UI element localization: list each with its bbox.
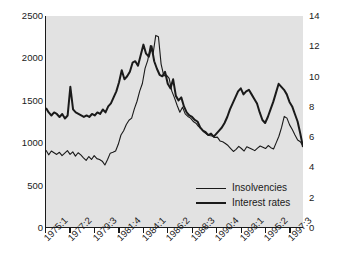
right-axis-tick-label: 8 xyxy=(309,102,314,112)
legend-item-interest-rates: Interest rates xyxy=(196,198,290,208)
legend-line-icon-interest-rates xyxy=(196,202,226,204)
legend-item-insolvencies: Insolvencies xyxy=(196,183,290,193)
series-line-interest-rates xyxy=(46,45,303,147)
right-axis-tick-label: 4 xyxy=(309,163,314,173)
legend-label-insolvencies: Insolvencies xyxy=(232,183,287,193)
left-axis-tick-label: 1500 xyxy=(22,96,43,106)
left-axis-tick-label: 1000 xyxy=(22,138,43,148)
x-axis-label-group: 1975:11977:21979:31981:41984:11986:21988… xyxy=(0,232,340,278)
left-axis-tick-label: 2500 xyxy=(22,11,43,21)
left-axis-tick-label: 500 xyxy=(27,181,43,191)
right-axis-tick-label: 12 xyxy=(309,42,320,52)
legend-line-icon-insolvencies xyxy=(196,188,226,189)
right-axis-tick-label: 2 xyxy=(309,193,314,203)
right-axis-tick-label: 14 xyxy=(309,11,320,21)
legend: Insolvencies Interest rates xyxy=(196,183,290,208)
series-line-insolvencies xyxy=(46,35,303,165)
left-axis-tick-label: 2000 xyxy=(22,54,43,64)
legend-label-interest-rates: Interest rates xyxy=(232,198,290,208)
right-axis-tick-label: 6 xyxy=(309,132,314,142)
insolvencies-interest-rates-chart: 05001000150020002500 02468101214 1975:11… xyxy=(0,0,340,278)
right-axis-tick-label: 10 xyxy=(309,72,320,82)
